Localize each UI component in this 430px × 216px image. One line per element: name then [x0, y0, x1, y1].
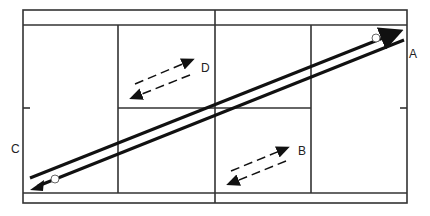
- shot-arrow-to-A: [30, 32, 398, 178]
- dashed-arrow-D-up: [135, 60, 192, 84]
- court-lines: [23, 10, 407, 203]
- label-D: D: [201, 62, 210, 74]
- label-C: C: [11, 143, 20, 155]
- dashed-arrow-B-down: [229, 161, 286, 184]
- court-diagram: [0, 0, 430, 216]
- marker-top-right: [372, 34, 380, 42]
- marker-bottom-left: [51, 175, 59, 183]
- label-A: A: [409, 48, 417, 60]
- dashed-arrows-D: [132, 60, 192, 98]
- dashed-arrow-B-up: [231, 148, 287, 171]
- shot-line-to-C: [38, 40, 404, 186]
- arrowhead-to-C: [30, 180, 44, 191]
- dashed-arrow-D-down: [132, 75, 190, 98]
- dashed-arrows-B: [229, 148, 287, 184]
- long-shot-paths: [30, 32, 404, 191]
- label-B: B: [298, 145, 306, 157]
